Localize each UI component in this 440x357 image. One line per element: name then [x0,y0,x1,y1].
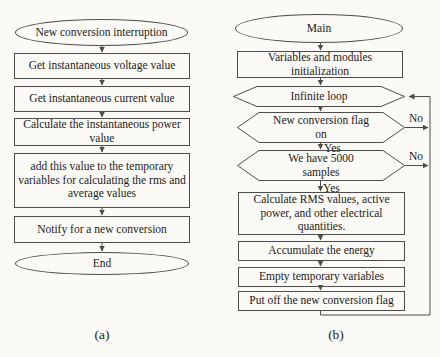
a-node-add-temp: add this value to the temporary variable… [14,153,190,208]
a-node-notify: Notify for a new conversion [14,216,190,243]
a-node-end-label: End [93,257,112,271]
a-node-get-voltage-label: Get instantaneous voltage value [29,59,176,73]
a-node-get-current-label: Get instantaneous current value [29,92,174,106]
b-node-empty-temp-label: Empty temporary variables [259,270,384,284]
b-node-put-off-flag-label: Put off the new conversion flag [249,294,393,308]
b-node-empty-temp: Empty temporary variables [238,267,405,287]
a-node-calc-power-label: Calculate the instantaneous power value [23,118,180,145]
a-node-calc-power: Calculate the instantaneous power value [14,118,190,146]
a-node-end: End [15,252,189,275]
a-node-get-voltage: Get instantaneous voltage value [14,53,190,79]
b-node-have-samples-label: We have 5000 samples [288,152,354,179]
figure-flowcharts: New conversion interruption Get instanta… [0,0,440,357]
b-node-main: Main [235,14,403,43]
a-node-start: New conversion interruption [15,19,188,46]
b-node-accumulate: Accumulate the energy [238,241,405,261]
b-node-calc-rms-label: Calculate RMS values, active power, and … [253,193,389,234]
b-node-new-conversion-flag-label: New conversion flag on [273,114,369,141]
b-node-new-conversion-flag: New conversion flag on [237,112,405,143]
b-node-infinite-loop-label: Infinite loop [290,90,347,104]
a-node-get-current: Get instantaneous current value [14,86,190,112]
caption-b: (b) [314,327,358,343]
b-edge-label-yes-samples: Yes [323,183,340,195]
b-node-infinite-loop: Infinite loop [233,86,405,107]
b-edge-label-no-flag: No [409,113,423,125]
b-node-have-samples: We have 5000 samples [237,150,405,181]
b-node-main-label: Main [307,22,331,36]
caption-a: (a) [80,327,124,343]
b-node-put-off-flag: Put off the new conversion flag [238,291,405,311]
b-node-accumulate-label: Accumulate the energy [268,244,374,258]
a-node-notify-label: Notify for a new conversion [37,223,167,237]
b-node-init-label: Variables and modules initialization [268,51,372,78]
a-node-add-temp-label: add this value to the temporary variable… [18,160,186,201]
b-edge-label-no-samples: No [409,151,423,163]
b-node-init: Variables and modules initialization [237,51,403,78]
a-node-start-label: New conversion interruption [35,26,167,40]
b-node-calc-rms: Calculate RMS values, active power, and … [238,192,405,235]
